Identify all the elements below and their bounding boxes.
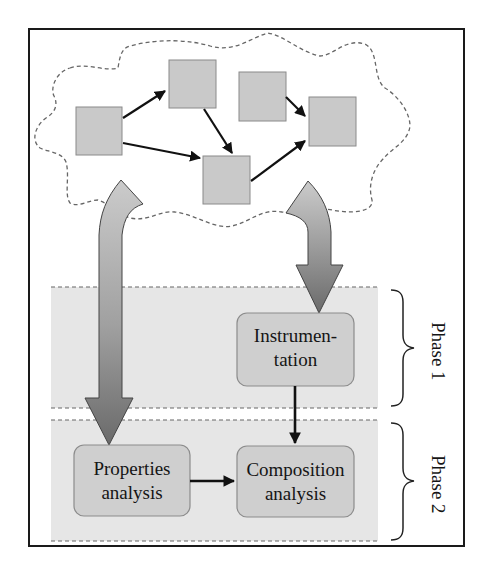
phase-2-label: Phase 2 xyxy=(428,455,449,514)
properties-analysis-box: Properties analysis xyxy=(74,445,190,516)
component-node-a xyxy=(76,107,122,155)
instrumentation-box: Instrumen- tation xyxy=(237,313,354,386)
component-node-b xyxy=(169,60,216,108)
composition-label-line2: analysis xyxy=(265,483,326,504)
component-node-d xyxy=(309,97,356,146)
component-node-c xyxy=(239,72,286,121)
component-node-e xyxy=(203,156,250,204)
composition-analysis-box: Composition analysis xyxy=(237,446,354,517)
diagram-canvas: Instrumen- tation Properties analysis Co… xyxy=(0,0,488,569)
properties-label-line2: analysis xyxy=(101,482,162,503)
properties-label-line1: Properties xyxy=(93,458,170,479)
instrumentation-label-line2: tation xyxy=(274,349,318,370)
composition-label-line1: Composition xyxy=(246,459,345,480)
instrumentation-label-line1: Instrumen- xyxy=(254,325,337,346)
phase-1-label: Phase 1 xyxy=(428,322,449,381)
